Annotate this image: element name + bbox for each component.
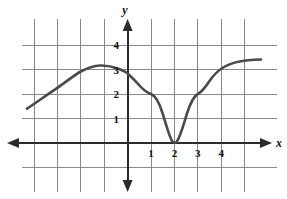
coordinate-plane: 1 2 3 4 1 2 3 4 y x [0, 0, 287, 199]
function-curve [27, 60, 261, 143]
y-axis-down-arrow-icon [123, 180, 133, 192]
y-tick-label-4: 4 [114, 39, 120, 51]
y-tick-label-1: 1 [114, 113, 120, 125]
y-axis-label: y [120, 3, 128, 17]
x-tick-label-1: 1 [148, 147, 154, 159]
x-axis-label: x [275, 136, 282, 150]
x-tick-label-3: 3 [195, 147, 201, 159]
x-tick-label-2: 2 [172, 147, 178, 159]
x-axis-right-arrow-icon [260, 138, 272, 148]
y-tick-labels: 1 2 3 4 [114, 39, 120, 125]
x-tick-label-4: 4 [218, 147, 224, 159]
x-tick-labels: 1 2 3 4 [148, 147, 224, 159]
graph-figure: 1 2 3 4 1 2 3 4 y x [0, 0, 287, 199]
x-axis [7, 138, 272, 148]
x-axis-left-arrow-icon [7, 138, 19, 148]
y-tick-label-3: 3 [114, 64, 120, 76]
y-tick-label-2: 2 [114, 88, 120, 100]
y-axis-up-arrow-icon [123, 19, 133, 31]
